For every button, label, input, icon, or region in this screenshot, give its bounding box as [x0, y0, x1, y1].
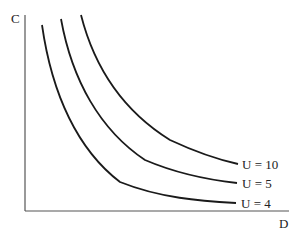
curve-label-u5: U = 5	[242, 176, 272, 191]
curve-label-u4: U = 4	[241, 196, 271, 211]
curve-u4	[42, 25, 236, 203]
x-axis-label: D	[279, 216, 288, 231]
indifference-curve-chart: C D U = 10 U = 5 U = 4	[0, 0, 300, 236]
curve-u5	[61, 19, 237, 183]
curve-label-u10: U = 10	[242, 157, 278, 172]
y-axis-label: C	[11, 11, 20, 26]
curve-u10	[81, 15, 238, 164]
